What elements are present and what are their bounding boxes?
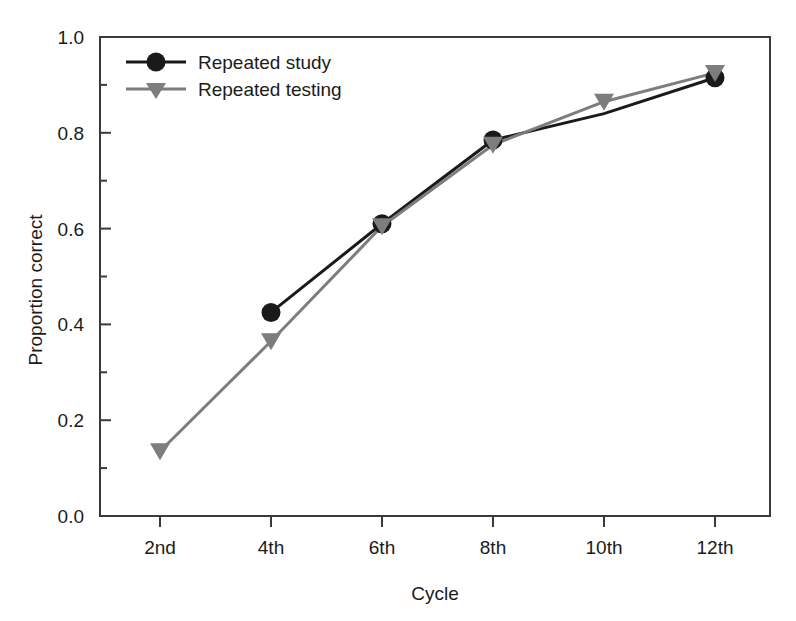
x-tick-label: 2nd: [144, 537, 176, 558]
legend-item-repeated-study: Repeated study: [126, 52, 332, 73]
legend-marker-circle-icon: [147, 53, 166, 72]
y-axis-tick-labels: 0.00.20.40.60.81.0: [58, 27, 85, 527]
legend-label-repeated-study: Repeated study: [198, 52, 332, 73]
plot-frame: [100, 37, 770, 516]
x-tick-label: 8th: [480, 537, 506, 558]
chart-svg: 0.00.20.40.60.81.0 2nd4th6th8th10th12th …: [0, 0, 796, 621]
y-tick-label: 0.0: [58, 506, 84, 527]
y-axis-title: Proportion correct: [25, 214, 46, 366]
x-tick-label: 10th: [586, 537, 623, 558]
legend-label-repeated-testing: Repeated testing: [198, 79, 342, 100]
y-tick-label: 0.8: [58, 123, 84, 144]
x-axis-tick-labels: 2nd4th6th8th10th12th: [144, 537, 733, 558]
chart-figure: 0.00.20.40.60.81.0 2nd4th6th8th10th12th …: [0, 0, 796, 621]
x-tick-label: 6th: [369, 537, 395, 558]
marker-repeated-study-4th: [262, 303, 281, 322]
y-tick-label: 0.6: [58, 219, 84, 240]
x-tick-label: 12th: [697, 537, 734, 558]
x-axis-ticks: [160, 516, 715, 527]
x-tick-label: 4th: [258, 537, 284, 558]
y-tick-label: 1.0: [58, 27, 84, 48]
x-axis-title: Cycle: [411, 583, 459, 604]
y-tick-label: 0.2: [58, 410, 84, 431]
y-tick-label: 0.4: [58, 314, 85, 335]
